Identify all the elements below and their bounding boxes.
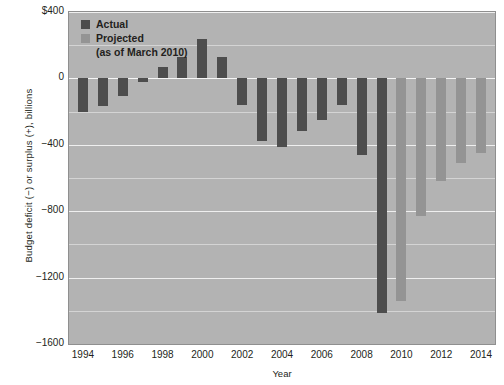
legend: Actual Projected (as of March 2010) — [81, 17, 188, 59]
bar-2000 — [197, 39, 207, 78]
legend-item-projected: Projected — [81, 31, 188, 45]
x-tick-label: 2010 — [381, 349, 421, 360]
y-tick-label: 0 — [18, 71, 64, 82]
x-tick-label: 2000 — [182, 349, 222, 360]
x-tick-label: 2012 — [421, 349, 461, 360]
y-tick-label: $400 — [18, 5, 64, 16]
bar-2014 — [476, 78, 486, 153]
gridline — [69, 278, 495, 279]
bar-2011 — [416, 78, 426, 215]
plot-inner — [69, 12, 495, 344]
bar-2005 — [297, 78, 307, 131]
y-tick-label: −1600 — [18, 337, 64, 348]
legend-swatch-projected-icon — [81, 34, 90, 43]
bar-2003 — [257, 78, 267, 141]
x-tick-label: 2014 — [461, 349, 501, 360]
bar-2013 — [456, 78, 466, 163]
legend-note: (as of March 2010) — [81, 45, 188, 59]
bar-2009 — [377, 78, 387, 313]
y-tick-label: −400 — [18, 138, 64, 149]
y-tick-label: −800 — [18, 204, 64, 215]
bar-2012 — [436, 78, 446, 180]
x-tick-label: 1996 — [103, 349, 143, 360]
x-tick-label: 1994 — [63, 349, 103, 360]
bar-1995 — [98, 78, 108, 105]
x-tick-label: 2006 — [302, 349, 342, 360]
bar-2004 — [277, 78, 287, 147]
y-axis-tick-labels: $4000−400−800−1200−1600 — [0, 0, 64, 385]
budget-deficit-chart: Budget deficit (−) or surplus (+), billi… — [0, 0, 504, 385]
legend-item-actual: Actual — [81, 17, 188, 31]
x-tick-label: 2008 — [342, 349, 382, 360]
legend-label-projected: Projected — [96, 31, 144, 45]
bar-2002 — [237, 78, 247, 104]
bar-2006 — [317, 78, 327, 119]
gridline — [69, 311, 495, 312]
legend-label-actual: Actual — [96, 17, 128, 31]
x-tick-label: 1998 — [143, 349, 183, 360]
bar-1999 — [177, 57, 187, 78]
bar-1997 — [138, 78, 148, 82]
bar-2010 — [396, 78, 406, 301]
x-axis-label: Year — [68, 368, 496, 379]
gridline — [69, 178, 495, 179]
bar-1996 — [118, 78, 128, 96]
y-tick-label: −1200 — [18, 271, 64, 282]
gridline — [69, 211, 495, 212]
bar-2001 — [217, 57, 227, 78]
bar-2007 — [337, 78, 347, 105]
x-axis-tick-labels: 1994199619982000200220042006200820102012… — [68, 349, 496, 365]
bar-1994 — [78, 78, 88, 112]
x-tick-label: 2004 — [262, 349, 302, 360]
legend-swatch-actual-icon — [81, 20, 90, 29]
gridline — [69, 244, 495, 245]
plot-area: Actual Projected (as of March 2010) — [68, 11, 496, 345]
gridline — [69, 344, 495, 345]
bar-1998 — [158, 67, 168, 78]
x-tick-label: 2002 — [222, 349, 262, 360]
gridline — [69, 12, 495, 13]
bar-2008 — [357, 78, 367, 154]
